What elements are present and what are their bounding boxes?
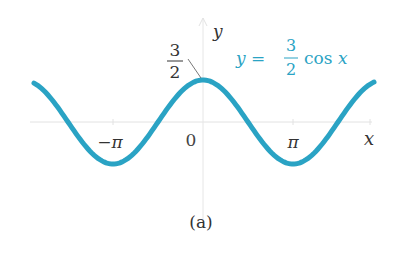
amplitude-pointer	[188, 59, 201, 78]
equation-x: x	[338, 48, 348, 68]
tick-label-pi: π	[286, 132, 299, 152]
equation-denominator: 2	[286, 60, 296, 79]
equation-numerator: 3	[286, 36, 296, 55]
amplitude-denominator: 2	[170, 62, 181, 82]
tick-label-zero: 0	[186, 130, 197, 150]
equation-lhs: y =	[235, 48, 265, 68]
figure-caption: (a)	[189, 212, 212, 232]
tick-label-neg-pi: −π	[97, 132, 123, 152]
y-axis-label: y	[212, 21, 223, 41]
equation-cos: cos	[304, 48, 338, 68]
equation-rhs: cos x	[304, 48, 348, 68]
amplitude-numerator: 3	[170, 40, 181, 60]
cosine-graph: 3 2 y y = 3 2 cos x −π 0 π x (a)	[0, 0, 400, 266]
x-axis-label: x	[364, 128, 374, 149]
